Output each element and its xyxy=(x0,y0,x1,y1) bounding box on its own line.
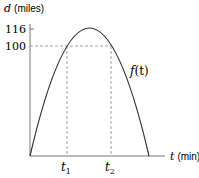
curve-label: f(t) xyxy=(129,64,149,78)
t2-label: t2 xyxy=(105,160,115,176)
t1-label: t1 xyxy=(61,160,71,176)
y-var: d xyxy=(4,2,11,15)
y-tick-label-116: 116 xyxy=(5,23,26,36)
x-var: t xyxy=(170,150,175,163)
y-tick-label-100: 100 xyxy=(5,40,26,53)
curve-label-arg: (t) xyxy=(134,64,148,78)
curve-f xyxy=(30,28,149,156)
y-unit: (miles) xyxy=(14,3,44,14)
t1-sub: 1 xyxy=(66,167,71,176)
chart: d(miles) 116 100 f(t) t(min) t1 t2 xyxy=(0,0,199,178)
y-axis-label: d(miles) xyxy=(4,2,44,15)
x-axis-label: t(min) xyxy=(170,150,199,163)
t2-sub: 2 xyxy=(110,167,115,176)
x-unit: (min) xyxy=(177,151,199,162)
